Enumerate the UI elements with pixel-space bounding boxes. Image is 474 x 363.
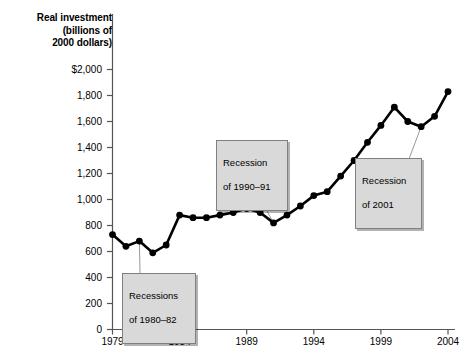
data-point xyxy=(404,118,411,125)
y-tick-label: 1,000 xyxy=(40,195,102,205)
annotation-recession-2001: Recession of 2001 xyxy=(355,158,422,229)
data-point xyxy=(123,243,130,250)
data-point xyxy=(163,242,170,249)
annotation-line-2: of 2001 xyxy=(362,199,415,211)
data-point xyxy=(431,113,438,120)
annotation-recessions-1980-82: Recessions of 1980–82 xyxy=(122,273,196,344)
y-tick-label: 200 xyxy=(40,299,102,309)
x-tick-label: 1989 xyxy=(225,337,269,347)
investment-line-chart: Real investment (billions of 2000 dollar… xyxy=(0,0,474,363)
y-tick-label: 1,200 xyxy=(40,169,102,179)
data-point xyxy=(337,173,344,180)
x-tick-label: 2004 xyxy=(426,337,470,347)
data-point xyxy=(378,122,385,129)
y-tick-label: 1,800 xyxy=(40,91,102,101)
annotation-line-2: of 1980–82 xyxy=(129,314,189,326)
annotation-leader-line xyxy=(139,241,140,273)
y-tick-label: 800 xyxy=(40,221,102,231)
data-point xyxy=(109,231,116,238)
annotation-recession-1990-91: Recession of 1990–91 xyxy=(216,140,288,211)
data-point xyxy=(216,212,223,219)
data-point xyxy=(203,214,210,221)
data-point xyxy=(176,212,183,219)
y-tick-label: 1,400 xyxy=(40,143,102,153)
data-point xyxy=(270,220,277,227)
y-axis-ticks xyxy=(107,70,113,330)
y-tick-label: 600 xyxy=(40,247,102,257)
y-tick-label: 1,600 xyxy=(40,117,102,127)
y-tick-label: $2,000 xyxy=(40,65,102,75)
data-point xyxy=(324,188,331,195)
data-point xyxy=(297,203,304,210)
data-point xyxy=(136,238,143,245)
data-point xyxy=(418,123,425,130)
data-point xyxy=(391,104,398,111)
data-point xyxy=(364,139,371,146)
data-point xyxy=(445,88,452,95)
annotation-line-1: Recession xyxy=(362,175,415,187)
y-tick-label: 0 xyxy=(40,325,102,335)
annotation-line-1: Recessions xyxy=(129,290,189,302)
annotation-line-2: of 1990–91 xyxy=(223,181,281,193)
annotation-line-1: Recession xyxy=(223,157,281,169)
x-tick-label: 1994 xyxy=(292,337,336,347)
data-point xyxy=(310,192,317,199)
data-point xyxy=(190,214,197,221)
x-tick-label: 1999 xyxy=(359,337,403,347)
y-tick-label: 400 xyxy=(40,273,102,283)
data-point xyxy=(149,249,156,256)
data-point xyxy=(284,212,291,219)
